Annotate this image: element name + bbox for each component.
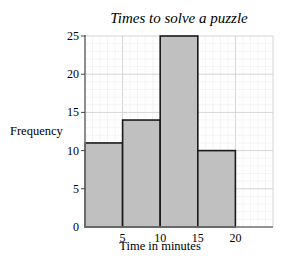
chart-title: Times to solve a puzzle bbox=[110, 10, 248, 26]
histogram-bar bbox=[85, 143, 123, 227]
histogram-bar bbox=[123, 120, 161, 227]
x-tick-label: 20 bbox=[229, 231, 241, 245]
y-tick-label: 10 bbox=[67, 144, 79, 158]
y-tick-label: 25 bbox=[67, 29, 79, 43]
y-tick-label: 20 bbox=[67, 67, 79, 81]
x-axis-label: Time in minutes bbox=[119, 239, 201, 253]
histogram-chart: 05101520255101520 Times to solve a puzzl… bbox=[0, 0, 288, 266]
y-axis-label: Frequency bbox=[10, 124, 64, 138]
y-tick-label: 5 bbox=[73, 182, 79, 196]
histogram-bar bbox=[160, 36, 198, 227]
y-tick-label: 15 bbox=[67, 105, 79, 119]
histogram-bar bbox=[198, 151, 236, 227]
y-tick-label: 0 bbox=[73, 220, 79, 234]
